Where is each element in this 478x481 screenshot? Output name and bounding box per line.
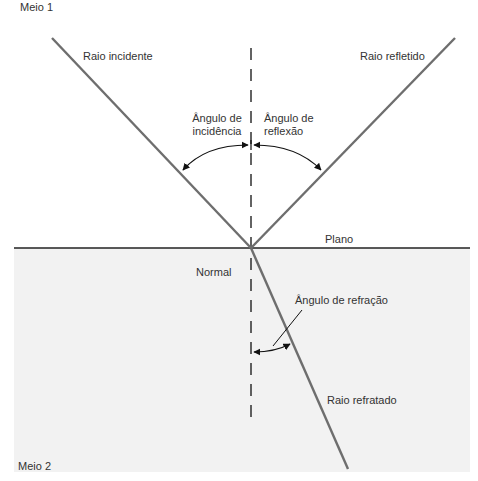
reflection-angle-line1: Ângulo de [264, 112, 314, 125]
medium-2-label: Meio 2 [18, 460, 51, 473]
refraction-angle-label: Ângulo de refração [295, 294, 388, 307]
incidence-angle-line2: incidência [186, 125, 248, 138]
incidence-angle-label: Ângulo de incidência [186, 112, 248, 138]
reflection-angle-label: Ângulo de reflexão [264, 112, 314, 138]
reflected-ray [251, 38, 455, 248]
incidence-angle-line1: Ângulo de [186, 112, 248, 125]
incidence-angle-arc [183, 145, 248, 170]
plane-label: Plano [325, 233, 353, 246]
medium-1-label: Meio 1 [20, 1, 53, 14]
incident-ray [52, 38, 251, 248]
incident-ray-label: Raio incidente [83, 50, 153, 63]
optics-diagram [0, 0, 478, 481]
normal-label: Normal [196, 266, 231, 279]
reflected-ray-label: Raio refletido [360, 50, 425, 63]
reflection-angle-line2: reflexão [264, 125, 314, 138]
medium-2-region [14, 248, 470, 472]
refracted-ray-label: Raio refratado [327, 394, 397, 407]
reflection-angle-arc [254, 145, 321, 170]
